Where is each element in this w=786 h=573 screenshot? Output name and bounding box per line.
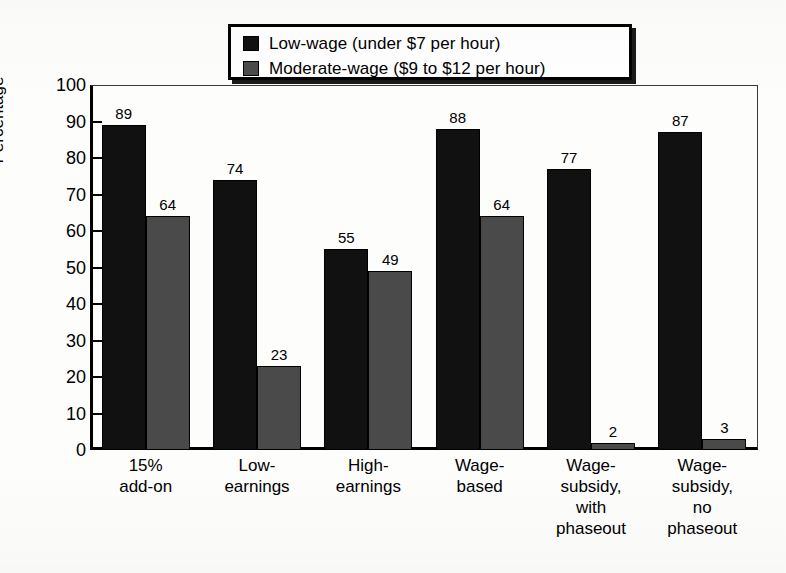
bar-low: [213, 180, 257, 450]
y-axis-tick-label: 0: [0, 441, 86, 459]
legend-label-moderate-wage: Moderate-wage ($9 to $12 per hour): [269, 60, 546, 77]
x-axis-category-line: Wage-: [424, 455, 535, 476]
bar-value-label: 23: [256, 347, 302, 362]
x-axis-category-line: subsidy,: [647, 476, 758, 497]
x-axis-category-label: 15%add-on: [90, 455, 201, 497]
legend-swatch-moderate-wage: [243, 61, 259, 76]
y-axis-tick-label: 70: [0, 186, 86, 204]
bar-value-label: 89: [101, 106, 147, 121]
bar-value-label: 74: [212, 161, 258, 176]
bar-value-label: 64: [479, 197, 525, 212]
bar-mod: [146, 216, 190, 450]
y-axis-tick-label: 100: [0, 76, 86, 94]
chart-legend: Low-wage (under $7 per hour) Moderate-wa…: [228, 24, 632, 80]
x-axis-category-line: 15%: [90, 455, 201, 476]
bar-group: 7423: [201, 85, 312, 450]
bar-value-label: 87: [657, 113, 703, 128]
bar-value-label: 88: [435, 110, 481, 125]
bar-mod: [702, 439, 746, 450]
bar-value-label: 49: [367, 252, 413, 267]
bar-value-label: 3: [701, 420, 747, 435]
bar-low: [547, 169, 591, 450]
legend-swatch-low-wage: [243, 36, 259, 51]
y-axis-tick-label: 30: [0, 332, 86, 350]
y-axis-tick-label: 10: [0, 405, 86, 423]
x-axis-category-label: Wage-based: [424, 455, 535, 497]
bar-group: 772: [535, 85, 646, 450]
bar-group: 8964: [90, 85, 201, 450]
bar-value-label: 55: [323, 230, 369, 245]
bar-low: [436, 129, 480, 450]
x-axis-category-line: earnings: [201, 476, 312, 497]
x-axis-category-line: no: [647, 497, 758, 518]
x-axis-category-line: with: [535, 497, 646, 518]
x-axis-category-line: subsidy,: [535, 476, 646, 497]
bar-mod: [368, 271, 412, 450]
bar-mod: [591, 443, 635, 450]
y-axis-tick-label: 50: [0, 259, 86, 277]
bar-group: 873: [647, 85, 758, 450]
x-axis-labels: 15%add-onLow-earningsHigh-earningsWage-b…: [90, 455, 758, 565]
legend-item-low-wage: Low-wage (under $7 per hour): [243, 31, 619, 56]
x-axis-category-line: phaseout: [647, 518, 758, 539]
bar-groups: 8964742355498864772873: [90, 85, 758, 450]
bar-value-label: 77: [546, 150, 592, 165]
legend-label-low-wage: Low-wage (under $7 per hour): [269, 35, 501, 52]
bar-mod: [257, 366, 301, 450]
chart-page: Low-wage (under $7 per hour) Moderate-wa…: [0, 0, 786, 573]
bar-low: [658, 132, 702, 450]
bar-value-label: 64: [145, 197, 191, 212]
x-axis-category-line: Wage-: [647, 455, 758, 476]
x-axis-category-line: add-on: [90, 476, 201, 497]
x-axis-category-label: High-earnings: [313, 455, 424, 497]
x-axis-category-line: phaseout: [535, 518, 646, 539]
x-axis-category-label: Low-earnings: [201, 455, 312, 497]
x-axis-category-label: Wage-subsidy,nophaseout: [647, 455, 758, 539]
bar-mod: [480, 216, 524, 450]
x-axis-category-label: Wage-subsidy,withphaseout: [535, 455, 646, 539]
x-axis-category-line: High-: [313, 455, 424, 476]
bar-group: 5549: [313, 85, 424, 450]
bar-low: [324, 249, 368, 450]
x-axis-category-line: earnings: [313, 476, 424, 497]
x-axis-category-line: based: [424, 476, 535, 497]
y-axis-tick-label: 20: [0, 368, 86, 386]
y-axis-tick-label: 90: [0, 113, 86, 131]
bar-low: [102, 125, 146, 450]
bar-group: 8864: [424, 85, 535, 450]
bar-value-label: 2: [590, 424, 636, 439]
x-axis-category-line: Low-: [201, 455, 312, 476]
x-axis-category-line: Wage-: [535, 455, 646, 476]
y-axis-tick-label: 40: [0, 295, 86, 313]
legend-item-moderate-wage: Moderate-wage ($9 to $12 per hour): [243, 56, 619, 81]
y-axis-tick-label: 60: [0, 222, 86, 240]
y-axis-tick-label: 80: [0, 149, 86, 167]
